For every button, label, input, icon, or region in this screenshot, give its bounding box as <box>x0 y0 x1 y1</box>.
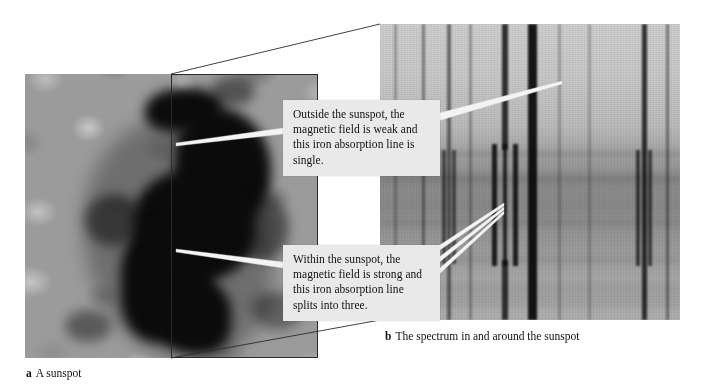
slit-to-spectrum-connector-top <box>171 24 380 74</box>
umbra-blob <box>235 194 289 260</box>
caption-a-text: A sunspot <box>36 367 82 379</box>
caption-b-label: b <box>385 330 391 342</box>
caption-panel-b: bThe spectrum in and around the sunspot <box>385 330 579 342</box>
umbra-blob <box>65 310 111 342</box>
caption-panel-a: aA sunspot <box>26 367 81 379</box>
sunspot-photograph <box>25 74 318 358</box>
figure-root: Outside the sunspot, the magnetic field … <box>0 0 707 390</box>
callout-outside-sunspot: Outside the sunspot, the magnetic field … <box>283 100 440 176</box>
umbra-blob <box>155 280 231 354</box>
callout-within-sunspot: Within the sunspot, the magnetic field i… <box>283 245 440 321</box>
umbra-blob <box>85 194 143 246</box>
caption-a-label: a <box>26 367 32 379</box>
caption-b-text: The spectrum in and around the sunspot <box>395 330 579 342</box>
